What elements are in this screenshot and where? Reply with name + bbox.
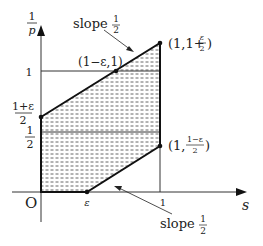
- label-lower-right: (1, 1−ε 2 ): [168, 135, 210, 155]
- point-y-intercept: [39, 115, 44, 120]
- y-tick-one: 1: [26, 66, 33, 79]
- y-axis-label: 1 p: [27, 10, 37, 37]
- x-tick-eps: ε: [84, 197, 89, 208]
- point-eps: [85, 190, 90, 195]
- svg-text:2: 2: [192, 146, 197, 155]
- x-axis-arrow-icon: [236, 188, 247, 196]
- svg-text:2: 2: [199, 44, 204, 53]
- svg-text:2: 2: [20, 114, 27, 127]
- svg-text:2: 2: [27, 138, 34, 151]
- svg-text:1: 1: [113, 14, 119, 24]
- slope-annotation-top: slope 1 2: [73, 14, 134, 52]
- slope-bottom-arrow-icon: [114, 186, 122, 191]
- svg-text:p: p: [28, 24, 35, 37]
- svg-text:ε: ε: [200, 33, 204, 42]
- svg-text:2: 2: [200, 226, 206, 236]
- svg-text:1: 1: [27, 124, 34, 137]
- svg-text:slope: slope: [160, 216, 195, 231]
- svg-text:1+ε: 1+ε: [12, 100, 34, 113]
- point-top-right: [158, 41, 163, 46]
- y-tick-one-plus-eps-half: 1+ε 2: [12, 100, 34, 127]
- svg-text:): ): [205, 138, 210, 153]
- y-tick-half: 1 2: [25, 124, 35, 151]
- x-tick-one: 1: [160, 197, 166, 208]
- label-top-right: (1,1+ ε 2 ): [168, 33, 212, 53]
- svg-text:(1,: (1,: [168, 138, 185, 153]
- origin-label: O: [25, 194, 37, 212]
- svg-text:2: 2: [113, 25, 119, 35]
- point-lower-right: [158, 144, 163, 149]
- svg-text:1: 1: [29, 10, 36, 23]
- svg-text:): ): [207, 36, 212, 51]
- svg-text:1: 1: [200, 214, 206, 224]
- svg-text:1−ε: 1−ε: [187, 135, 203, 144]
- interpolation-diagram: 1 p s O 1 1+ε 2 1 2 ε 1 (1,1+ ε 2 ) (1−ε…: [0, 0, 263, 246]
- point-upper-mid: [114, 69, 119, 74]
- slope-annotation-bottom: slope 1 2: [114, 186, 207, 236]
- y-axis-arrow-icon: [37, 25, 45, 36]
- label-upper-mid: (1−ε,1): [78, 55, 123, 69]
- x-axis-label: s: [242, 197, 249, 213]
- svg-text:slope: slope: [73, 16, 108, 31]
